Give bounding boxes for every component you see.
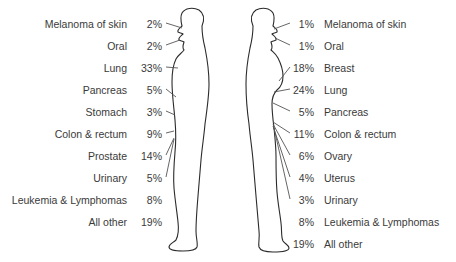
site-percent: 8% xyxy=(288,214,314,230)
list-item-female-5: 11% Colon & rectum xyxy=(288,126,396,142)
leader-line-male-melanoma xyxy=(166,23,182,28)
site-label: Melanoma of skin xyxy=(45,16,127,32)
list-item-male-4: Stomach 3% xyxy=(86,104,162,120)
site-label: Ovary xyxy=(324,148,352,164)
list-item-female-10: 19% All other xyxy=(288,236,363,252)
site-percent: 3% xyxy=(288,192,314,208)
site-percent: 1% xyxy=(288,16,314,32)
site-percent: 3% xyxy=(136,104,162,120)
site-label: Leukemia & Lymphomas xyxy=(12,192,127,208)
list-item-female-7: 4% Uterus xyxy=(288,170,355,186)
list-item-male-8: Leukemia & Lymphomas 8% xyxy=(12,192,162,208)
male-label-column: Melanoma of skin 2% Oral 2% Lung 33% Pan… xyxy=(0,0,168,262)
site-label: Colon & rectum xyxy=(324,126,396,142)
site-label: Pancreas xyxy=(324,104,368,120)
site-percent: 8% xyxy=(136,192,162,208)
site-label: Prostate xyxy=(88,148,127,164)
site-percent: 1% xyxy=(288,38,314,54)
site-percent: 5% xyxy=(136,170,162,186)
site-label: Leukemia & Lymphomas xyxy=(324,214,439,230)
site-label: Uterus xyxy=(324,170,355,186)
site-label: Colon & rectum xyxy=(55,126,127,142)
female-silhouette xyxy=(246,8,289,252)
male-silhouette xyxy=(169,8,209,251)
list-item-female-3: 24% Lung xyxy=(288,82,347,98)
site-label: Melanoma of skin xyxy=(324,16,406,32)
site-percent: 4% xyxy=(288,170,314,186)
site-label: Lung xyxy=(324,82,347,98)
list-item-male-2: Lung 33% xyxy=(104,60,162,76)
site-label: Urinary xyxy=(324,192,358,208)
site-label: Oral xyxy=(324,38,344,54)
list-item-male-6: Prostate 14% xyxy=(88,148,162,164)
list-item-female-2: 18% Breast xyxy=(288,60,354,76)
site-label: All other xyxy=(324,236,363,252)
site-percent: 19% xyxy=(288,236,314,252)
list-item-male-3: Pancreas 5% xyxy=(83,82,162,98)
list-item-male-7: Urinary 5% xyxy=(93,170,162,186)
site-percent: 19% xyxy=(136,214,162,230)
site-percent: 9% xyxy=(136,126,162,142)
site-label: Pancreas xyxy=(83,82,127,98)
leader-line-male-oral xyxy=(166,40,180,45)
site-percent: 33% xyxy=(136,60,162,76)
site-percent: 6% xyxy=(288,148,314,164)
site-percent: 5% xyxy=(288,104,314,120)
site-percent: 11% xyxy=(288,126,314,142)
list-item-female-1: 1% Oral xyxy=(288,38,344,54)
site-percent: 2% xyxy=(136,38,162,54)
site-label: Lung xyxy=(104,60,127,76)
site-label: All other xyxy=(88,214,127,230)
list-item-female-4: 5% Pancreas xyxy=(288,104,368,120)
list-item-male-1: Oral 2% xyxy=(107,38,162,54)
site-percent: 2% xyxy=(136,16,162,32)
list-item-female-0: 1% Melanoma of skin xyxy=(288,16,406,32)
site-label: Oral xyxy=(107,38,127,54)
list-item-male-0: Melanoma of skin 2% xyxy=(45,16,162,32)
cancer-incidence-diagram: Melanoma of skin 2% Oral 2% Lung 33% Pan… xyxy=(0,0,456,262)
site-label: Stomach xyxy=(86,104,127,120)
list-item-male-9: All other 19% xyxy=(88,214,162,230)
site-percent: 18% xyxy=(288,60,314,76)
list-item-male-5: Colon & rectum 9% xyxy=(55,126,162,142)
site-percent: 5% xyxy=(136,82,162,98)
list-item-female-9: 8% Leukemia & Lymphomas xyxy=(288,214,439,230)
site-percent: 14% xyxy=(136,148,162,164)
site-percent: 24% xyxy=(288,82,314,98)
list-item-female-6: 6% Ovary xyxy=(288,148,352,164)
site-label: Breast xyxy=(324,60,354,76)
site-label: Urinary xyxy=(93,170,127,186)
list-item-female-8: 3% Urinary xyxy=(288,192,358,208)
female-label-column: 1% Melanoma of skin 1% Oral 18% Breast 2… xyxy=(288,0,456,262)
